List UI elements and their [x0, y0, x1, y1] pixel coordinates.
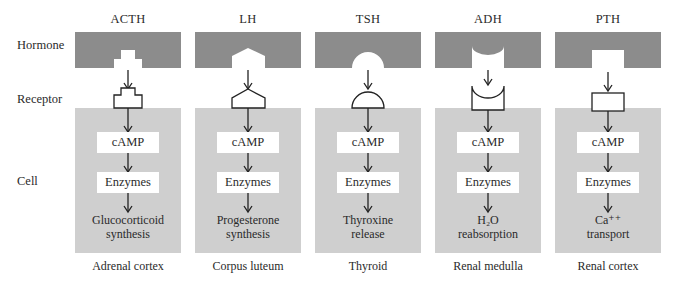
result-line-1: H₂O — [425, 213, 551, 227]
result-line-2: reabsorption — [425, 227, 551, 241]
hormone-title: ADH — [435, 12, 541, 27]
hormone-shape-acth — [75, 32, 181, 68]
enzymes-box: Enzymes — [577, 172, 639, 193]
enzymes-box: Enzymes — [457, 172, 519, 193]
enzymes-box: Enzymes — [217, 172, 279, 193]
result-line-2: synthesis — [185, 227, 311, 241]
result-text: Glucocorticoid synthesis — [65, 213, 191, 241]
hormone-shape-tsh — [315, 32, 421, 68]
row-label-cell: Cell — [17, 174, 38, 189]
result-text: H₂O reabsorption — [425, 213, 551, 241]
result-line-1: Thyroxine — [305, 213, 431, 227]
result-text: Progesterone synthesis — [185, 213, 311, 241]
receptor-icon-rectangle — [555, 88, 661, 218]
pathway-column-lh: LH cAMP Enzymes Progesterone synthesis C… — [195, 0, 301, 285]
result-line-2: release — [305, 227, 431, 241]
result-line-1: Ca⁺⁺ — [545, 213, 671, 227]
camp-box: cAMP — [97, 132, 159, 153]
camp-box: cAMP — [217, 132, 279, 153]
camp-box: cAMP — [577, 132, 639, 153]
pathway-column-tsh: TSH cAMP Enzymes Thyroxine release Thyro… — [315, 0, 421, 285]
receptor-icon-semicircle — [315, 88, 421, 218]
hormone-title: TSH — [315, 12, 421, 27]
hormone-shape-adh — [435, 32, 541, 68]
enzymes-box: Enzymes — [337, 172, 399, 193]
receptor-icon-pentagon — [195, 88, 301, 218]
receptor-icon-cup — [435, 88, 541, 218]
hormone-shape-lh — [195, 32, 301, 68]
hormone-title: LH — [195, 12, 301, 27]
pathway-column-adh: ADH cAMP Enzymes H₂O reabsorption Renal … — [435, 0, 541, 285]
enzymes-box: Enzymes — [97, 172, 159, 193]
row-label-hormone: Hormone — [17, 38, 64, 53]
result-line-1: Glucocorticoid — [65, 213, 191, 227]
result-text: Ca⁺⁺ transport — [545, 213, 671, 241]
camp-box: cAMP — [457, 132, 519, 153]
camp-box: cAMP — [337, 132, 399, 153]
hormone-title: PTH — [555, 12, 661, 27]
result-text: Thyroxine release — [305, 213, 431, 241]
hormone-title: ACTH — [75, 12, 181, 27]
row-label-receptor: Receptor — [17, 92, 62, 107]
tissue-label: Renal cortex — [535, 259, 673, 274]
hormone-shape-pth — [555, 32, 661, 68]
pathway-column-pth: PTH cAMP Enzymes Ca⁺⁺ transport Renal co… — [555, 0, 661, 285]
result-line-2: transport — [545, 227, 671, 241]
result-line-1: Progesterone — [185, 213, 311, 227]
result-line-2: synthesis — [65, 227, 191, 241]
pathway-column-acth: ACTH cAMP Enzymes Glucocorticoid synthes… — [75, 0, 181, 285]
